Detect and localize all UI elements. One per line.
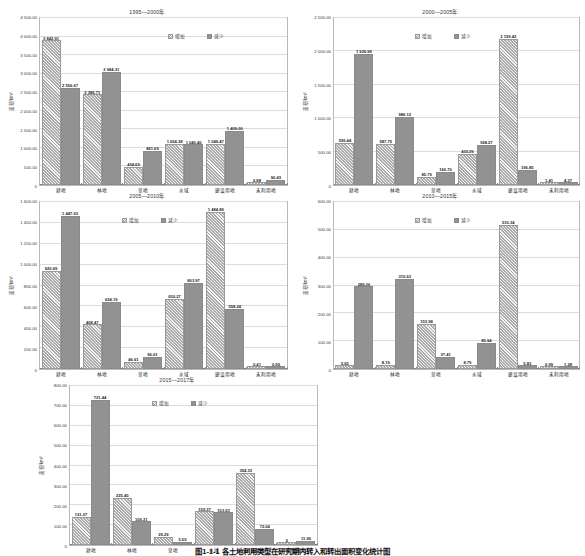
bar-decrease[interactable]: 1 409.00 — [225, 131, 244, 185]
bar-increase[interactable]: 408.47 — [83, 324, 102, 369]
bar-decrease[interactable]: 109.21 — [132, 521, 151, 545]
bar-increase[interactable]: 510.34 — [499, 225, 518, 369]
bar-group: 510.345.83 — [497, 202, 538, 369]
plot-area: 面积/km²0100.00200.00300.00400.00500.00600… — [36, 385, 318, 546]
y-axis-ticks: 0500.001 000.001 500.002 000.002 500.003… — [15, 17, 39, 186]
chart-title: 2005—2010年 — [6, 192, 288, 201]
y-tick-label: 500.00 — [24, 165, 37, 170]
x-tick-label: 草地 — [416, 371, 457, 377]
bar-decrease[interactable]: 153.63 — [214, 512, 233, 545]
plot-area: 面积/km²0100.00200.00300.00400.00500.00600… — [300, 201, 580, 370]
bar-decrease[interactable]: 1 040.40 — [184, 144, 203, 185]
chart-title: 2015—2017年 — [36, 376, 318, 385]
y-axis-label-text: 面积/km² — [302, 92, 308, 111]
x-tick-label: 建设用地 — [497, 371, 538, 377]
y-tick-label: 4 500.00 — [20, 15, 37, 20]
bar-value-label: 153.98 — [420, 319, 433, 324]
bar-increase[interactable]: 587.75 — [376, 144, 395, 185]
bar-decrease[interactable]: 2 984.31 — [102, 72, 121, 185]
y-axis-ticks: 0100.00200.00300.00400.00500.00600.00700… — [45, 385, 69, 546]
bar-decrease[interactable]: 96.01 — [143, 357, 162, 369]
plot-area: 面积/km²0500.001 000.001 500.002 000.002 5… — [6, 17, 288, 186]
y-tick-label: 0 — [35, 368, 37, 373]
figure-panel-grid: 1995—2000年面积/km²0500.001 000.001 500.002… — [0, 0, 585, 556]
bar-decrease[interactable]: 803.97 — [184, 283, 203, 369]
y-tick-label: 600.00 — [24, 304, 37, 309]
bar-increase[interactable]: 650.27 — [165, 299, 184, 369]
plot-area: 面积/km²0200.00400.00600.00800.001 000.001… — [6, 201, 288, 370]
bar-increase[interactable]: 2 159.42 — [499, 39, 518, 185]
bar-value-label: 861.69 — [146, 146, 159, 151]
y-tick-label: 400.00 — [24, 325, 37, 330]
bar-increase[interactable]: 434.69 — [124, 167, 143, 185]
bar-decrease[interactable]: 196.85 — [518, 170, 537, 185]
bar-value-label: 568.27 — [480, 140, 493, 145]
bar-decrease[interactable]: 72.04 — [255, 529, 274, 545]
bar-value-label: 2 556.67 — [62, 83, 78, 88]
bar-group: 6.8890.43 — [246, 18, 287, 185]
chart-title: 2000—2005年 — [300, 8, 580, 17]
bar-value-label: 510.34 — [502, 220, 515, 225]
y-tick-label: 300.00 — [54, 483, 67, 488]
bar-increase[interactable]: 131.27 — [72, 517, 91, 545]
y-axis-label-text: 面积/km² — [8, 92, 14, 111]
y-tick-label: 2 500.00 — [314, 15, 331, 20]
plot-box: 增加减少5.65289.368.19315.63153.9837.418.798… — [333, 201, 580, 370]
bar-increase[interactable]: 46.61 — [124, 362, 143, 369]
bar-decrease[interactable]: 624.19 — [102, 302, 121, 369]
bar-decrease[interactable]: 2 556.67 — [61, 88, 80, 185]
bar-group: 5.65289.36 — [334, 202, 375, 369]
bar-group: 0.991.28 — [538, 202, 579, 369]
bar-group: 434.69861.69 — [122, 18, 163, 185]
bar-group: 225.40109.21 — [111, 386, 152, 545]
bar-decrease[interactable]: 558.24 — [225, 309, 244, 369]
bar-value-label: 1 049.47 — [208, 139, 224, 144]
bar-decrease[interactable]: 37.41 — [436, 357, 455, 369]
bar-increase[interactable]: 3 842.91 — [42, 40, 61, 185]
y-tick-label: 100.00 — [318, 339, 331, 344]
bar-value-label: 1 484.89 — [208, 207, 224, 212]
y-tick-label: 800.00 — [24, 283, 37, 288]
y-tick-label: 500.00 — [318, 150, 331, 155]
bar-increase[interactable]: 920.69 — [42, 271, 61, 369]
x-tickmark — [579, 367, 580, 369]
bar-decrease[interactable]: 166.70 — [436, 172, 455, 185]
bar-increase[interactable]: 29.29 — [154, 537, 173, 545]
bar-decrease[interactable]: 289.36 — [354, 286, 373, 369]
bar-decrease[interactable]: 1 926.99 — [354, 54, 373, 185]
bar-decrease[interactable]: 315.63 — [395, 279, 414, 369]
bar-increase[interactable]: 1 049.47 — [206, 144, 225, 185]
bar-group: 29.295.59 — [152, 386, 193, 545]
bar-decrease[interactable]: 986.12 — [395, 117, 414, 185]
bar-decrease[interactable]: 85.94 — [477, 343, 496, 369]
y-tick-label: 3 000.00 — [20, 71, 37, 76]
bar-increase[interactable]: 354.33 — [236, 473, 255, 545]
plot-box: 增加减少131.27721.44225.40109.2129.295.59159… — [69, 385, 318, 546]
bar-value-label: 408.47 — [86, 320, 99, 325]
bar-increase[interactable]: 85.79 — [417, 177, 436, 185]
y-tick-label: 1 500.00 — [314, 82, 331, 87]
bar-increase[interactable]: 433.29 — [458, 154, 477, 185]
chart-panel-0: 1995—2000年面积/km²0500.001 000.001 500.002… — [6, 8, 288, 186]
bar-increase[interactable]: 1 054.38 — [165, 144, 184, 185]
chart-title: 2010—2015年 — [300, 192, 580, 201]
bar-group: 1.414.37 — [538, 18, 579, 185]
bar-increase[interactable]: 153.98 — [417, 324, 436, 369]
bar-increase[interactable]: 225.40 — [113, 498, 132, 545]
bar-increase[interactable]: 159.37 — [195, 511, 214, 545]
bar-decrease[interactable]: 861.69 — [143, 151, 162, 185]
bar-value-label: 225.40 — [116, 493, 129, 498]
bar-decrease[interactable]: 568.27 — [477, 145, 496, 185]
figure-caption: 图1-1-1 各土地利用类型在研究期内转入和转出面积变化统计图 — [0, 545, 585, 556]
bar-increase[interactable]: 1 484.89 — [206, 212, 225, 369]
bar-decrease[interactable]: 1 447.03 — [61, 216, 80, 369]
bar-increase[interactable]: 2 386.71 — [83, 94, 102, 185]
bar-increase[interactable]: 595.44 — [335, 143, 354, 185]
y-tick-label: 1 400.00 — [20, 220, 37, 225]
bar-group: 0.410.99 — [246, 202, 287, 369]
bar-value-label: 72.04 — [260, 524, 270, 529]
y-tick-label: 600.00 — [54, 423, 67, 428]
bar-decrease[interactable]: 721.44 — [91, 400, 110, 545]
bar-value-label: 0.99 — [272, 362, 280, 367]
y-tick-label: 200.00 — [24, 346, 37, 351]
